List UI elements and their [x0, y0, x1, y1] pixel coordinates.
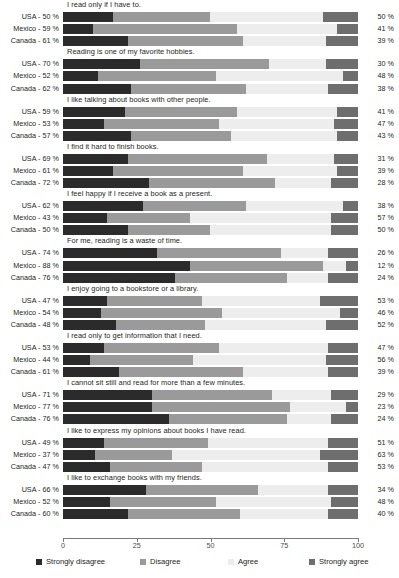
segment-strongly-agree	[337, 131, 358, 141]
chart-row: Canada - 57 %43 %	[0, 130, 399, 142]
row-label-canada: Canada - 47 %	[0, 462, 59, 472]
row-value-agree-total: 47 %	[358, 119, 396, 129]
segment-agree	[323, 261, 347, 271]
row-label-canada: Canada - 61 %	[0, 36, 59, 46]
row-label-mexico: Mexico - 52 %	[0, 71, 59, 81]
segment-strongly-agree	[328, 438, 358, 448]
segment-strongly-agree	[334, 119, 358, 129]
segment-agree	[258, 485, 329, 495]
chart-row: USA - 50 %50 %	[0, 11, 399, 23]
group-rows: USA - 59 %41 %Mexico - 53 %47 %Canada - …	[0, 106, 399, 142]
segment-strongly-agree	[337, 24, 358, 34]
segment-agree	[281, 248, 328, 258]
segment-strongly-disagree	[63, 154, 128, 164]
segment-strongly-agree	[328, 509, 358, 519]
axis-tick-label: 50	[207, 541, 215, 550]
segment-strongly-disagree	[63, 450, 95, 460]
segment-strongly-agree	[328, 367, 358, 377]
segment-strongly-disagree	[63, 308, 101, 318]
segment-agree	[246, 201, 343, 211]
segment-disagree	[128, 225, 211, 235]
segment-strongly-agree	[343, 71, 358, 81]
segment-agree	[275, 178, 331, 188]
statement-title: I read only to get information that I ne…	[0, 331, 399, 342]
segment-agree	[190, 213, 332, 223]
row-value-agree-total: 48 %	[358, 497, 396, 507]
stacked-bar	[63, 355, 358, 365]
legend-item-disagree[interactable]: Disagree	[140, 557, 180, 566]
chart-row: USA - 62 %38 %	[0, 200, 399, 212]
chart-row: Mexico - 37 %63 %	[0, 449, 399, 461]
segment-agree	[222, 308, 340, 318]
row-value-agree-total: 12 %	[358, 261, 396, 271]
legend-swatch-icon	[36, 559, 42, 565]
row-label-usa: USA - 70 %	[0, 59, 59, 69]
segment-agree	[210, 12, 322, 22]
chart-row: Canada - 50 %50 %	[0, 224, 399, 236]
statement-group: I like to express my opinions about book…	[0, 426, 399, 473]
row-value-agree-total: 24 %	[358, 414, 396, 424]
segment-strongly-agree	[343, 201, 358, 211]
segment-disagree	[143, 201, 246, 211]
stacked-bar	[63, 84, 358, 94]
segment-strongly-disagree	[63, 131, 131, 141]
statement-group: I read only to get information that I ne…	[0, 331, 399, 378]
row-label-usa: USA - 66 %	[0, 485, 59, 495]
row-label-usa: USA - 49 %	[0, 438, 59, 448]
legend-label: Agree	[238, 557, 258, 566]
segment-agree	[216, 497, 331, 507]
row-value-agree-total: 48 %	[358, 71, 396, 81]
segment-disagree	[113, 12, 210, 22]
segment-agree	[219, 119, 334, 129]
row-value-agree-total: 38 %	[358, 201, 396, 211]
segment-strongly-agree	[340, 308, 358, 318]
segment-disagree	[110, 462, 201, 472]
legend-label: Strongly disagree	[46, 557, 105, 566]
chart-row: Canada - 76 %24 %	[0, 413, 399, 425]
segment-disagree	[152, 402, 291, 412]
segment-disagree	[110, 497, 216, 507]
chart-row: USA - 71 %29 %	[0, 389, 399, 401]
statement-title: I cannot sit still and read for more tha…	[0, 378, 399, 389]
row-label-mexico: Mexico - 54 %	[0, 308, 59, 318]
row-label-usa: USA - 53 %	[0, 343, 59, 353]
segment-disagree	[146, 485, 258, 495]
legend-swatch-icon	[309, 559, 315, 565]
group-rows: USA - 49 %51 %Mexico - 37 %63 %Canada - …	[0, 437, 399, 473]
legend-item-agree[interactable]: Agree	[228, 557, 258, 566]
chart-row: Mexico - 43 %57 %	[0, 212, 399, 224]
statement-group: I find it hard to finish books.USA - 69 …	[0, 142, 399, 189]
segment-strongly-agree	[326, 320, 358, 330]
legend-label: Disagree	[150, 557, 180, 566]
chart-row: Canada - 61 %39 %	[0, 366, 399, 378]
row-label-canada: Canada - 60 %	[0, 509, 59, 519]
segment-disagree	[125, 107, 237, 117]
segment-strongly-agree	[328, 343, 358, 353]
segment-strongly-disagree	[63, 320, 116, 330]
statement-group: Reading is one of my favorite hobbies.US…	[0, 47, 399, 94]
stacked-bar	[63, 273, 358, 283]
segment-agree	[237, 107, 337, 117]
segment-strongly-disagree	[63, 509, 128, 519]
stacked-bar	[63, 225, 358, 235]
segment-disagree	[104, 119, 219, 129]
chart-row: USA - 49 %51 %	[0, 437, 399, 449]
segment-strongly-disagree	[63, 273, 175, 283]
segment-strongly-agree	[328, 248, 358, 258]
row-value-agree-total: 40 %	[358, 509, 396, 519]
row-value-agree-total: 28 %	[358, 178, 396, 188]
chart-row: USA - 53 %47 %	[0, 342, 399, 354]
statement-title: Reading is one of my favorite hobbies.	[0, 47, 399, 58]
chart-row: Canada - 60 %40 %	[0, 508, 399, 520]
group-rows: USA - 53 %47 %Mexico - 44 %56 %Canada - …	[0, 342, 399, 378]
axis-tick-label: 100	[352, 541, 364, 550]
segment-agree	[205, 320, 326, 330]
segment-agree	[208, 438, 329, 448]
legend-item-strongly-disagree[interactable]: Strongly disagree	[36, 557, 105, 566]
segment-disagree	[149, 178, 276, 188]
row-label-canada: Canada - 61 %	[0, 367, 59, 377]
stacked-bar	[63, 24, 358, 34]
legend-item-strongly-agree[interactable]: Strongly agree	[309, 557, 368, 566]
segment-strongly-disagree	[63, 59, 140, 69]
row-value-agree-total: 30 %	[358, 59, 396, 69]
